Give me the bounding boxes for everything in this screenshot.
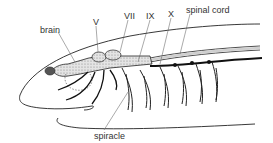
label-vagus-nerve: X <box>168 10 174 19</box>
label-facial-nerve: VII <box>124 12 135 21</box>
body-outline-snout <box>20 95 94 110</box>
eye-outline <box>65 74 92 90</box>
label-brain: brain <box>40 26 60 35</box>
olfactory-bulb <box>45 67 55 75</box>
label-spinal-cord: spinal cord <box>186 6 230 15</box>
body-outline-ventral <box>57 118 255 129</box>
label-spiracle: spiracle <box>94 132 125 141</box>
gill-arches <box>122 62 218 112</box>
shark-nerve-diagram <box>0 0 273 143</box>
label-glossopharyngeal-nerve: IX <box>146 12 155 21</box>
label-trigeminal-nerve: V <box>93 18 99 27</box>
